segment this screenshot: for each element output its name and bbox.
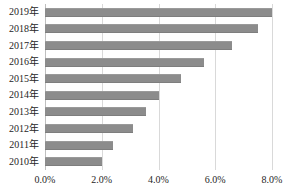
bar bbox=[45, 58, 204, 67]
x-axis-label: 4.0% bbox=[148, 174, 169, 186]
bar-row bbox=[45, 21, 272, 38]
y-axis-label: 2019年 bbox=[9, 7, 39, 17]
bar-row bbox=[45, 137, 272, 154]
x-axis-label: 8.0% bbox=[262, 174, 283, 186]
bar-row bbox=[45, 70, 272, 87]
x-axis-label: 0.0% bbox=[35, 174, 56, 186]
x-axis-tick-labels: 0.0%2.0%4.0%6.0%8.0% bbox=[0, 174, 292, 190]
y-axis-label: 2013年 bbox=[9, 107, 39, 117]
bar-series bbox=[45, 4, 272, 170]
bar-row bbox=[45, 54, 272, 71]
bar-row bbox=[45, 87, 272, 104]
bar bbox=[45, 91, 159, 100]
gridline bbox=[272, 4, 273, 170]
bar-row bbox=[45, 120, 272, 137]
y-axis-label: 2010年 bbox=[9, 157, 39, 167]
bar bbox=[45, 107, 146, 116]
plot-area bbox=[45, 4, 272, 170]
y-axis-label: 2011年 bbox=[9, 140, 39, 150]
bar bbox=[45, 124, 133, 133]
x-axis-label: 6.0% bbox=[205, 174, 226, 186]
bar-row bbox=[45, 153, 272, 170]
bar bbox=[45, 8, 272, 17]
y-axis-label: 2014年 bbox=[9, 90, 39, 100]
y-axis-label: 2018年 bbox=[9, 24, 39, 34]
y-axis-category-labels: 2019年2018年2017年2016年2015年2014年2013年2012年… bbox=[0, 4, 42, 170]
y-axis-label: 2017年 bbox=[9, 41, 39, 51]
bar bbox=[45, 157, 102, 166]
bar-row bbox=[45, 104, 272, 121]
bar-row bbox=[45, 37, 272, 54]
bar bbox=[45, 41, 232, 50]
x-axis-label: 2.0% bbox=[91, 174, 112, 186]
y-axis-label: 2015年 bbox=[9, 74, 39, 84]
bar bbox=[45, 24, 258, 33]
bar bbox=[45, 141, 113, 150]
y-axis-label: 2016年 bbox=[9, 57, 39, 67]
bar bbox=[45, 74, 181, 83]
y-axis-label: 2012年 bbox=[9, 124, 39, 134]
bar-row bbox=[45, 4, 272, 21]
bar-chart: 2019年2018年2017年2016年2015年2014年2013年2012年… bbox=[0, 0, 292, 195]
